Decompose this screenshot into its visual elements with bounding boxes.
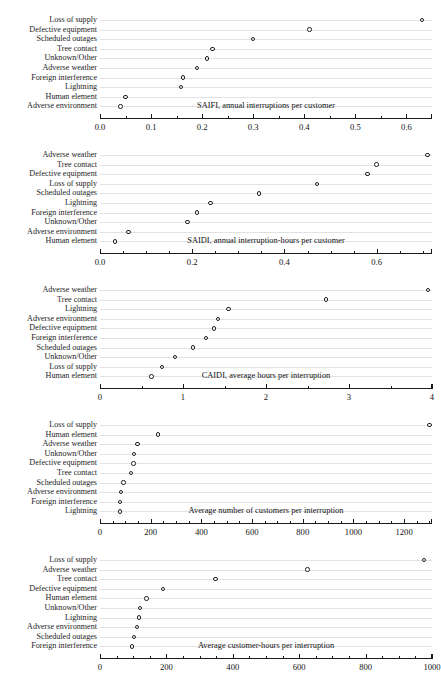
data-point-marker: [185, 220, 189, 224]
axis-minor-tick: [176, 521, 177, 524]
category-label: Unknown/Other: [44, 217, 97, 227]
x-axis-tick-label: 0.5: [350, 121, 361, 133]
row-guide-line: [100, 174, 432, 175]
category-label: Lightning: [65, 82, 97, 92]
data-point-marker: [126, 230, 130, 234]
data-point-marker: [119, 490, 123, 494]
x-axis-tick-label: 0: [98, 391, 102, 403]
x-axis-line: [100, 118, 432, 119]
data-point-marker: [324, 297, 328, 301]
row-guide-line: [100, 570, 432, 571]
axis-major-tick: [100, 114, 101, 120]
row-guide-line: [100, 463, 432, 464]
axis-minor-tick: [379, 521, 380, 524]
axis-minor-tick: [169, 251, 170, 254]
row-guide-line: [100, 300, 432, 301]
row-guide-line: [100, 30, 432, 31]
category-label: Human element: [46, 593, 97, 603]
category-label: Lightning: [65, 506, 97, 516]
data-point-marker: [173, 355, 177, 359]
category-axis-labels: Loss of supplyHuman elementAdverse weath…: [0, 413, 99, 509]
x-axis-tick-label: 0.4: [279, 256, 290, 268]
axis-minor-tick: [183, 656, 184, 659]
axis-major-tick: [151, 519, 152, 525]
axis-major-tick: [183, 384, 184, 390]
category-label: Foreign interference: [31, 333, 97, 343]
x-axis-tick-label: 2: [264, 391, 268, 403]
axis-minor-tick: [189, 521, 190, 524]
row-guide-line: [100, 319, 432, 320]
x-axis-tick-label: 0.6: [371, 256, 382, 268]
axis-major-tick: [253, 114, 254, 120]
axis-minor-tick: [133, 656, 134, 659]
category-label: Tree contact: [57, 44, 97, 54]
category-label: Defective equipment: [29, 169, 97, 179]
panel-caption: Average customer-hours per interruption: [100, 641, 432, 651]
category-label: Human element: [46, 430, 97, 440]
axis-end-tick: [431, 114, 432, 120]
axis-major-tick: [252, 519, 253, 525]
axis-major-tick: [284, 249, 285, 255]
row-guide-line: [100, 579, 432, 580]
axis-major-tick: [349, 384, 350, 390]
row-guide-line: [100, 473, 432, 474]
axis-minor-tick: [400, 251, 401, 254]
chart-panel: Adverse weatherTree contactDefective equ…: [0, 143, 439, 278]
axis-major-tick: [366, 654, 367, 660]
data-point-marker: [191, 345, 195, 349]
x-axis-tick-label: 0.1: [146, 121, 157, 133]
category-axis-labels: Loss of supplyDefective equipmentSchedul…: [0, 8, 99, 104]
axis-minor-tick: [249, 656, 250, 659]
row-guide-line: [100, 155, 432, 156]
chart-panel: Loss of supplyDefective equipmentSchedul…: [0, 8, 439, 143]
data-point-marker: [422, 558, 426, 562]
axis-minor-tick: [142, 386, 143, 389]
category-label: Loss of supply: [49, 555, 97, 565]
x-axis-tick-label: 200: [144, 526, 157, 538]
category-label: Adverse weather: [42, 285, 97, 295]
row-guide-line: [100, 39, 432, 40]
x-axis-tick-label: 3: [347, 391, 351, 403]
category-label: Defective equipment: [29, 25, 97, 35]
axis-end-tick: [431, 519, 432, 525]
row-guide-line: [100, 492, 432, 493]
x-axis-tick-label: 0.0: [95, 256, 106, 268]
axis-minor-tick: [283, 656, 284, 659]
data-point-marker: [131, 461, 135, 465]
row-guide-line: [100, 165, 432, 166]
axis-minor-tick: [308, 386, 309, 389]
category-label: Foreign interference: [31, 497, 97, 507]
row-guide-line: [100, 618, 432, 619]
axis-minor-tick: [354, 251, 355, 254]
category-axis-labels: Adverse weatherTree contactDefective equ…: [0, 143, 99, 239]
x-axis-line: [100, 523, 432, 524]
data-point-marker: [315, 182, 319, 186]
axis-minor-tick: [163, 521, 164, 524]
plot-area: [100, 548, 432, 644]
data-point-marker: [420, 18, 424, 22]
row-guide-line: [100, 203, 432, 204]
data-point-marker: [212, 326, 216, 330]
x-axis-tick-label: 0.0: [95, 121, 106, 133]
data-point-marker: [144, 596, 148, 600]
category-label: Foreign interference: [31, 73, 97, 83]
data-point-marker: [161, 587, 165, 591]
axis-major-tick: [151, 114, 152, 120]
x-axis-tick-label: 0.3: [248, 121, 259, 133]
axis-minor-tick: [150, 656, 151, 659]
category-label: Adverse environment: [27, 314, 97, 324]
data-point-marker: [156, 432, 160, 436]
row-guide-line: [100, 338, 432, 339]
panel-inner: Adverse weatherTree contactDefective equ…: [0, 143, 439, 278]
axis-minor-tick: [349, 656, 350, 659]
axis-major-tick: [303, 519, 304, 525]
x-axis-tick-label: 0: [98, 661, 102, 673]
axis-major-tick: [166, 654, 167, 660]
row-guide-line: [100, 367, 432, 368]
x-axis-tick-label: 400: [195, 526, 208, 538]
panel-caption: CAIDI, average hours per interruption: [100, 371, 432, 381]
category-label: Loss of supply: [49, 15, 97, 25]
row-guide-line: [100, 454, 432, 455]
axis-major-tick: [201, 519, 202, 525]
